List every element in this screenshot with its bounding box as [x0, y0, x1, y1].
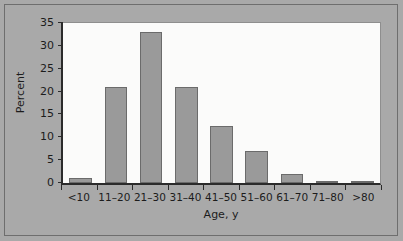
y-axis-title: Percent — [14, 0, 28, 185]
y-axis-tick-label: 0 — [47, 176, 54, 189]
x-axis-title: Age, y — [61, 208, 381, 221]
x-axis-tick — [61, 185, 62, 190]
bar — [351, 181, 374, 183]
y-axis-tick-label: 15 — [40, 107, 54, 120]
x-axis-tick-label: 61–70 — [274, 191, 310, 204]
x-axis-tick-label: 21–30 — [132, 191, 168, 204]
y-axis-tick-label: 30 — [40, 39, 54, 52]
x-axis-tick-label: 71–80 — [310, 191, 346, 204]
bar-slot — [133, 23, 168, 183]
plot-area: 05101520253035 — [61, 22, 381, 185]
x-axis-tick-label: 11–20 — [97, 191, 133, 204]
x-axis-tick-label: >80 — [346, 191, 382, 204]
bar-slot — [239, 23, 274, 183]
bar — [281, 174, 304, 183]
x-axis-tick-label: <10 — [61, 191, 97, 204]
x-axis-tick-label: 51–60 — [239, 191, 275, 204]
x-axis-tick — [97, 185, 98, 190]
bar-series — [63, 23, 380, 183]
bar — [316, 181, 339, 183]
x-axis-tick-label: 31–40 — [168, 191, 204, 204]
bar — [69, 178, 92, 183]
y-axis-tick-label: 10 — [40, 130, 54, 143]
bar-slot — [98, 23, 133, 183]
x-axis-tick — [274, 185, 275, 190]
y-axis-tick-label: 25 — [40, 62, 54, 75]
bar-slot — [274, 23, 309, 183]
x-axis-tick-label: 41–50 — [203, 191, 239, 204]
figure: Percent 05101520253035 <1011–2021–3031–4… — [0, 0, 403, 241]
bar — [210, 126, 233, 183]
x-axis-tick — [310, 185, 311, 190]
x-axis-tick — [381, 185, 382, 190]
bar — [175, 87, 198, 183]
bar — [140, 32, 163, 183]
bar — [105, 87, 128, 183]
y-axis-tick-label: 20 — [40, 85, 54, 98]
bar-slot — [63, 23, 98, 183]
y-axis-tick-label: 35 — [40, 16, 54, 29]
x-axis-tick — [168, 185, 169, 190]
x-axis-tick — [132, 185, 133, 190]
x-axis-tick-labels: <1011–2021–3031–4041–5051–6061–7071–80>8… — [61, 191, 381, 204]
bar-slot — [169, 23, 204, 183]
x-axis-tick — [345, 185, 346, 190]
bar-slot — [204, 23, 239, 183]
bar-slot — [310, 23, 345, 183]
y-axis-tick-label: 5 — [47, 153, 54, 166]
y-axis-title-label: Percent — [15, 72, 28, 113]
x-axis-tick — [203, 185, 204, 190]
bar-slot — [345, 23, 380, 183]
x-axis-tick — [239, 185, 240, 190]
bar — [245, 151, 268, 183]
